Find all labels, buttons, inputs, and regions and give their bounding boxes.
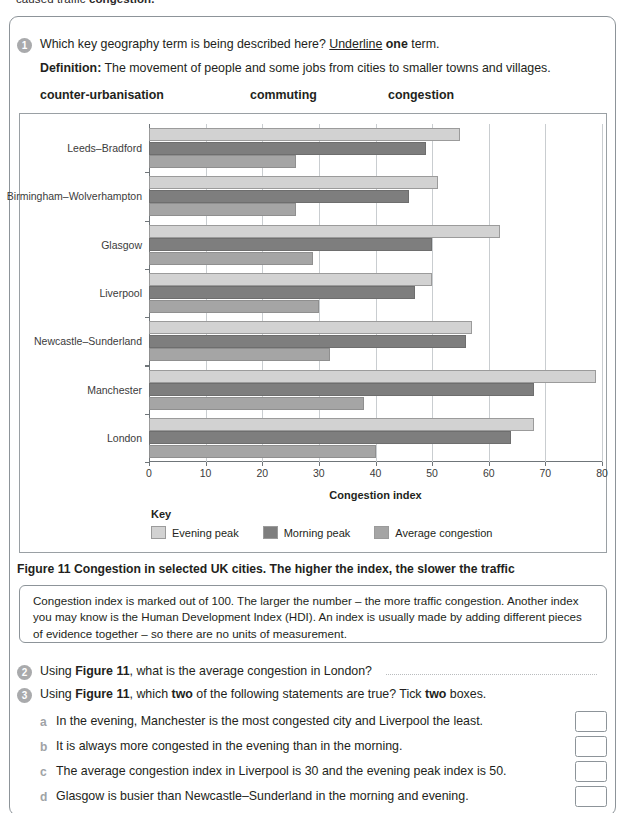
question-3-text-mid2: of the following statements are true? Ti… [193, 687, 425, 701]
chart-group-liverpool: Liverpool [149, 269, 602, 317]
bar-average-congestion [149, 203, 296, 216]
question-2-answer-line[interactable] [386, 664, 597, 675]
legend-swatch [151, 526, 166, 539]
term-option-commuting[interactable]: commuting [250, 88, 317, 102]
legend-label: Average congestion [395, 527, 492, 539]
option-text-a: In the evening, Manchester is the most c… [56, 714, 483, 728]
figure-11-chart: 01020304050607080Leeds–BradfordBirmingha… [19, 113, 607, 553]
option-row-c: cThe average congestion index in Liverpo… [40, 764, 607, 789]
option-checkbox-d[interactable] [575, 786, 607, 807]
x-tick-mark-10 [206, 462, 207, 466]
x-tick-label-60: 60 [483, 467, 495, 479]
info-box-text: Congestion index is marked out of 100. T… [33, 593, 594, 642]
legend-item-average-congestion: Average congestion [374, 526, 492, 539]
x-tick-mark-40 [376, 462, 377, 466]
question-1-text-before: Which key geography term is being descri… [40, 37, 329, 51]
option-letter-a: a [40, 714, 56, 729]
y-axis-label: Newcastle–Sunderland [34, 336, 142, 347]
option-text-c: The average congestion index in Liverpoo… [56, 764, 507, 778]
x-tick-label-80: 80 [596, 467, 608, 479]
term-option-congestion[interactable]: congestion [388, 88, 454, 102]
option-letter-c: c [40, 764, 56, 779]
option-row-b: bIt is always more congested in the even… [40, 739, 607, 764]
term-option-counter-urbanisation[interactable]: counter-urbanisation [40, 88, 164, 102]
x-tick-label-40: 40 [370, 467, 382, 479]
bar-average-congestion [149, 445, 376, 458]
truncated-text-prefix: caused traffic [16, 0, 89, 5]
bar-evening-peak [149, 273, 432, 286]
truncated-text-bold: congestion. [89, 0, 155, 5]
legend-label: Morning peak [284, 527, 351, 539]
y-axis-label: London [107, 433, 142, 444]
question-3-bold-two-b: two [425, 687, 446, 701]
y-axis-label: Birmingham–Wolverhampton [7, 191, 142, 202]
legend-item-morning-peak: Morning peak [263, 526, 351, 539]
option-row-a: aIn the evening, Manchester is the most … [40, 714, 607, 739]
bar-evening-peak [149, 128, 460, 141]
legend-swatch [263, 526, 278, 539]
question-3-text-after: boxes. [446, 687, 486, 701]
chart-group-newcastle-sunderland: Newcastle–Sunderland [149, 317, 602, 365]
question-3: 3 Using Figure 11, which two of the foll… [17, 687, 486, 703]
x-tick-mark-20 [262, 462, 263, 466]
truncated-body-text: caused traffic congestion. [16, 0, 155, 5]
bar-average-congestion [149, 397, 364, 410]
bar-average-congestion [149, 155, 296, 168]
question-2-text: Using Figure 11, what is the average con… [40, 664, 372, 678]
definition-label: Definition: [40, 61, 101, 75]
x-tick-mark-80 [602, 462, 603, 466]
legend-item-evening-peak: Evening peak [151, 526, 239, 539]
question-2-number: 2 [17, 665, 32, 680]
legend-title: Key [151, 508, 171, 520]
bar-morning-peak [149, 286, 415, 299]
question-1-text: Which key geography term is being descri… [40, 37, 439, 52]
worksheet-page: caused traffic congestion. 1 Which key g… [0, 0, 622, 813]
option-row-d: dGlasgow is busier than Newcastle–Sunder… [40, 789, 607, 813]
question-3-text: Using Figure 11, which two of the follow… [40, 687, 486, 701]
bar-morning-peak [149, 431, 511, 444]
question-2: 2 Using Figure 11, what is the average c… [17, 664, 597, 680]
x-tick-label-70: 70 [540, 467, 552, 479]
chart-group-london: London [149, 414, 602, 462]
figure-caption: Figure 11 Congestion in selected UK citi… [17, 562, 515, 576]
bar-morning-peak [149, 142, 426, 155]
x-tick-label-30: 30 [313, 467, 325, 479]
x-tick-label-0: 0 [146, 467, 152, 479]
bar-morning-peak [149, 238, 432, 251]
gridline-80 [602, 124, 603, 462]
bar-evening-peak [149, 418, 534, 431]
chart-legend: Evening peakMorning peakAverage congesti… [151, 526, 492, 539]
bar-average-congestion [149, 348, 330, 361]
bar-morning-peak [149, 190, 409, 203]
underline-keyword: Underline [329, 37, 382, 51]
bar-evening-peak [149, 176, 438, 189]
question-1-number: 1 [17, 38, 32, 53]
question-1-bold-one: one [386, 37, 408, 51]
option-checkbox-a[interactable] [575, 711, 607, 732]
x-tick-mark-70 [545, 462, 546, 466]
question-3-bold-two-a: two [172, 687, 193, 701]
option-checkbox-c[interactable] [575, 761, 607, 782]
bar-morning-peak [149, 335, 466, 348]
option-text-d: Glasgow is busier than Newcastle–Sunderl… [56, 789, 469, 803]
info-box: Congestion index is marked out of 100. T… [19, 585, 607, 643]
question-3-number: 3 [17, 688, 32, 703]
definition-text: The movement of people and some jobs fro… [101, 61, 551, 75]
y-axis-label: Liverpool [99, 288, 142, 299]
bar-average-congestion [149, 300, 319, 313]
question-2-text-after: , what is the average congestion in Lond… [130, 664, 372, 678]
question-3-text-mid: , which [130, 687, 172, 701]
option-checkbox-b[interactable] [575, 736, 607, 757]
question-2-figure-ref: Figure 11 [75, 664, 129, 678]
x-tick-label-50: 50 [426, 467, 438, 479]
x-tick-label-20: 20 [256, 467, 268, 479]
bar-morning-peak [149, 383, 534, 396]
bar-average-congestion [149, 252, 313, 265]
y-axis-label: Manchester [87, 385, 142, 396]
question-3-figure-ref: Figure 11 [75, 687, 129, 701]
x-axis-title: Congestion index [149, 489, 602, 501]
option-text-b: It is always more congested in the eveni… [56, 739, 402, 753]
legend-label: Evening peak [172, 527, 239, 539]
chart-group-manchester: Manchester [149, 365, 602, 413]
x-tick-mark-50 [432, 462, 433, 466]
